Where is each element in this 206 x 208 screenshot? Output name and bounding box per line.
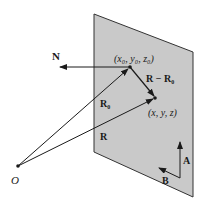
diagram-svg: N (x₀, y₀, z₀) R − R₀ R₀ (x, y, z) R A B… — [0, 0, 206, 208]
label-p0: (x₀, y₀, z₀) — [114, 53, 155, 65]
label-R-minus-R0: R − R₀ — [146, 73, 174, 84]
label-R0: R₀ — [100, 98, 110, 109]
label-origin: O — [11, 174, 19, 186]
label-R: R — [100, 131, 108, 142]
point-p0 — [128, 65, 132, 69]
label-N: N — [52, 50, 60, 62]
origin-point — [16, 164, 20, 168]
label-A: A — [183, 155, 191, 166]
plane-normal-diagram: N (x₀, y₀, z₀) R − R₀ R₀ (x, y, z) R A B… — [0, 0, 206, 208]
point-p — [153, 96, 157, 100]
label-p: (x, y, z) — [148, 107, 178, 119]
label-B: B — [162, 175, 169, 186]
